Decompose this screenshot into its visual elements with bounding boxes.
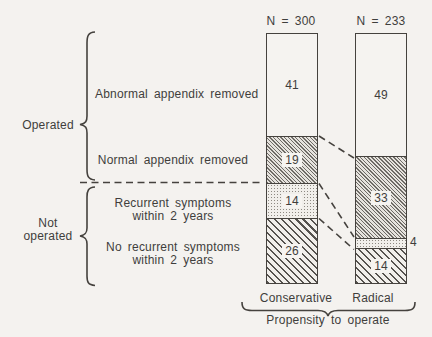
- value-label-abnormal-radical: 49: [371, 88, 390, 102]
- n-label-conservative: N = 300: [241, 15, 341, 28]
- segment-recurrent-conservative: 14: [267, 183, 317, 218]
- group-label-operated: Operated: [10, 119, 86, 132]
- bar-radical: 49 33 14: [355, 33, 407, 284]
- n-label-radical: N = 233: [331, 15, 431, 28]
- connector-dashed-line-2: [319, 184, 354, 238]
- operated-brace: [80, 32, 95, 180]
- value-label-no-recurrent-radical: 14: [371, 259, 390, 273]
- segment-normal-radical: 33: [356, 156, 406, 238]
- connector-dashed-line-3: [319, 219, 354, 250]
- axis-group-label: Propensity to operate: [228, 314, 428, 327]
- value-label-normal-radical: 33: [371, 191, 390, 205]
- segment-no-recurrent-radical: 14: [356, 248, 406, 283]
- segment-normal-conservative: 19: [267, 136, 317, 183]
- segment-recurrent-radical: [356, 238, 406, 248]
- row-label-normal-appendix: Normal appendix removed: [95, 154, 251, 167]
- segment-abnormal-radical: 49: [356, 34, 406, 156]
- column-label-radical: Radical: [323, 292, 423, 305]
- value-label-recurrent-radical-outside: 4: [410, 236, 417, 249]
- recurrent-line2: within 2 years: [95, 210, 251, 223]
- bar-conservative: 41 19 14 26: [266, 33, 318, 284]
- value-label-normal-conservative: 19: [282, 153, 301, 167]
- stacked-bar-figure: N = 300 N = 233 Operated Not operated Ab…: [0, 0, 432, 337]
- value-label-recurrent-conservative: 14: [282, 194, 301, 208]
- group-label-not-operated: Not operated: [10, 217, 86, 243]
- row-label-abnormal-appendix: Abnormal appendix removed: [95, 88, 251, 101]
- segment-abnormal-conservative: 41: [267, 34, 317, 136]
- segment-no-recurrent-conservative: 26: [267, 218, 317, 283]
- not-operated-line2: operated: [10, 230, 86, 243]
- value-label-no-recurrent-conservative: 26: [282, 244, 301, 258]
- connector-dashed-line-1: [319, 136, 354, 158]
- value-label-abnormal-conservative: 41: [282, 78, 301, 92]
- row-label-no-recurrent-symptoms: No recurrent symptoms within 2 years: [95, 241, 251, 267]
- row-label-recurrent-symptoms: Recurrent symptoms within 2 years: [95, 197, 251, 223]
- no-recurrent-line2: within 2 years: [95, 254, 251, 267]
